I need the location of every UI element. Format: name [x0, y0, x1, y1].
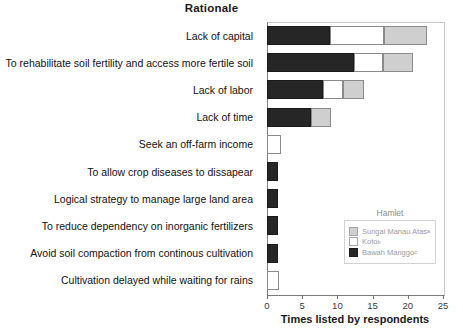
- bar-segment-grey: [343, 80, 364, 99]
- bar-segment-white: [267, 135, 281, 154]
- bar-row: [267, 49, 443, 76]
- bar-segment-dark: [267, 216, 278, 235]
- bar-segment-dark: [267, 162, 278, 181]
- x-axis-title: Times listed by respondents: [267, 313, 443, 325]
- legend: Sungai Manau AtasaKotobBawah Manggoc: [344, 220, 436, 264]
- legend-superscript: b: [377, 239, 380, 245]
- bar-segment-grey: [384, 26, 427, 45]
- legend-title: Hamlet: [344, 208, 436, 218]
- y-axis-label: Lack of time: [0, 104, 259, 131]
- y-axis-label: Seek an off-farm income: [0, 131, 259, 158]
- legend-item[interactable]: Sungai Manau Atasa: [349, 227, 431, 236]
- legend-label: Sungai Manau Atas: [362, 227, 427, 236]
- bar-stack: [267, 80, 364, 99]
- bar-stack: [267, 216, 278, 235]
- bar-row: [267, 158, 443, 185]
- bar-stack: [267, 135, 281, 154]
- y-axis-category-labels: Lack of capitalTo rehabilitate soil fert…: [0, 22, 259, 294]
- legend-superscript: a: [427, 228, 430, 234]
- x-axis-tick: [337, 295, 338, 299]
- legend-swatch-dark: [349, 248, 358, 257]
- stacked-bar-chart: Rationale Lack of capitalTo rehabilitate…: [0, 0, 463, 334]
- bar-segment-white: [354, 53, 384, 72]
- bar-segment-white: [323, 80, 343, 99]
- x-axis-tick-label: 0: [264, 300, 269, 311]
- legend-label: Koto: [362, 237, 377, 246]
- y-axis-label: Cultivation delayed while waiting for ra…: [0, 267, 259, 294]
- bar-segment-dark: [267, 53, 354, 72]
- x-axis-tick: [302, 295, 303, 299]
- bar-segment-dark: [267, 189, 278, 208]
- x-axis-tick: [408, 295, 409, 299]
- bar-segment-grey: [383, 53, 413, 72]
- bar-segment-dark: [267, 26, 330, 45]
- legend-item[interactable]: Kotob: [349, 237, 431, 246]
- legend-swatch-grey: [349, 227, 358, 236]
- chart-title: Rationale: [0, 2, 463, 14]
- y-axis-label: Avoid soil compaction from continous cul…: [0, 240, 259, 267]
- bar-segment-grey: [311, 108, 331, 127]
- bar-row: [267, 104, 443, 131]
- x-axis-tick: [373, 295, 374, 299]
- x-axis-tick-label: 10: [332, 300, 343, 311]
- bar-segment-white: [330, 26, 384, 45]
- bar-stack: [267, 244, 278, 263]
- legend-item[interactable]: Bawah Manggoc: [349, 248, 431, 257]
- bar-stack: [267, 271, 279, 290]
- y-axis-label: To rehabilitate soil fertility and acces…: [0, 49, 259, 76]
- bar-stack: [267, 189, 278, 208]
- bar-segment-dark: [267, 108, 311, 127]
- bar-row: [267, 131, 443, 158]
- y-axis-label: To allow crop diseases to dissapear: [0, 158, 259, 185]
- bar-row: [267, 22, 443, 49]
- bar-stack: [267, 108, 331, 127]
- x-axis-tick-label: 20: [403, 300, 414, 311]
- bar-segment-dark: [267, 244, 278, 263]
- bar-segment-white: [267, 271, 279, 290]
- y-axis-label: Lack of capital: [0, 22, 259, 49]
- bar-stack: [267, 162, 278, 181]
- bar-stack: [267, 26, 427, 45]
- bar-stack: [267, 53, 413, 72]
- y-axis-label: To reduce dependency on inorganic fertil…: [0, 212, 259, 239]
- y-axis-label: Logical strategy to manage large land ar…: [0, 185, 259, 212]
- bar-segment-dark: [267, 80, 323, 99]
- x-axis-tick-label: 25: [438, 300, 449, 311]
- legend-label: Bawah Manggo: [362, 248, 414, 257]
- bar-row: [267, 76, 443, 103]
- y-axis-label: Lack of labor: [0, 76, 259, 103]
- x-axis-tick-label: 5: [300, 300, 305, 311]
- x-axis-tick-label: 15: [367, 300, 378, 311]
- bar-row: [267, 267, 443, 294]
- legend-superscript: c: [414, 249, 417, 255]
- x-axis-tick: [267, 295, 268, 299]
- x-axis-tick: [443, 295, 444, 299]
- legend-swatch-white: [349, 237, 358, 246]
